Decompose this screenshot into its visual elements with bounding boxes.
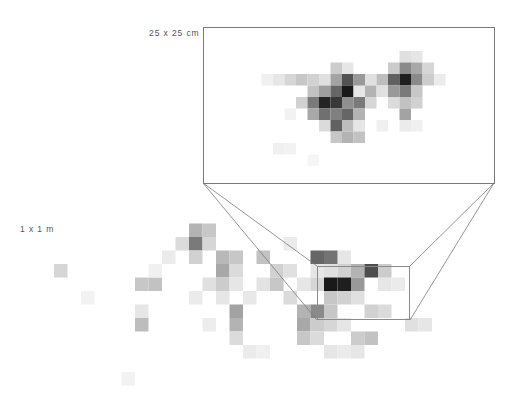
main-field-heatmap	[0, 210, 513, 413]
figure-canvas: 25 x 25 cm 1 x 1 m	[0, 0, 516, 413]
inset-scale-label: 25 x 25 cm	[149, 28, 200, 38]
magnified-inset-heatmap	[204, 28, 492, 178]
